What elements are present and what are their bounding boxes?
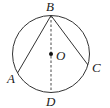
center-dot-o [49, 52, 53, 56]
chord-ba [18, 16, 52, 74]
label-a: A [6, 71, 15, 86]
label-c: C [92, 60, 101, 75]
label-d: D [45, 94, 56, 108]
label-b: B [46, 0, 54, 14]
label-o: O [56, 48, 66, 63]
geometry-diagram: B O A C D [0, 0, 110, 108]
